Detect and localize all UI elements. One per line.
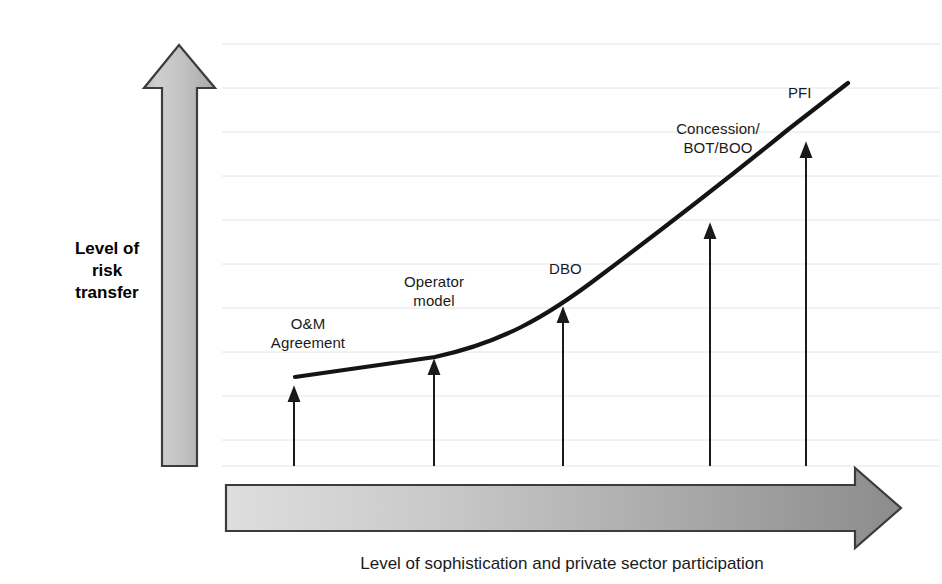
diagram-canvas: Level of risk transfer O&M Agreement Ope… xyxy=(0,0,942,584)
label-concession: Concession/ BOT/BOO xyxy=(676,119,760,157)
indicator-arrows xyxy=(289,144,811,466)
label-pfi: PFI xyxy=(788,83,812,102)
y-axis-arrow xyxy=(144,45,215,466)
x-axis-arrow xyxy=(226,468,901,548)
arrow-concession xyxy=(705,225,715,466)
arrow-om-agreement xyxy=(289,388,299,466)
y-axis-title: Level of risk transfer xyxy=(75,238,139,304)
arrow-dbo xyxy=(558,309,568,466)
x-axis-caption: Level of sophistication and private sect… xyxy=(360,554,764,574)
label-dbo: DBO xyxy=(549,259,582,278)
arrow-pfi xyxy=(801,144,811,466)
risk-transfer-curve xyxy=(295,83,848,377)
label-om-agreement: O&M Agreement xyxy=(271,314,345,352)
gridlines xyxy=(222,44,940,466)
arrow-operator-model xyxy=(429,361,439,466)
label-operator-model: Operator model xyxy=(404,272,464,310)
